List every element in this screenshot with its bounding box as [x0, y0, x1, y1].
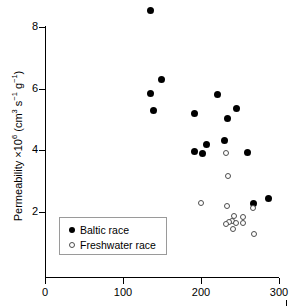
y-tick-label-4: 4 [8, 143, 38, 155]
y-tick-2 [39, 212, 45, 213]
data-point-baltic-13 [265, 195, 272, 202]
data-point-baltic-7 [224, 115, 231, 122]
y-axis-label-paren-close: ) [12, 71, 24, 75]
data-point-freshwater-4 [250, 205, 256, 211]
y-tick-6 [39, 89, 45, 90]
data-point-baltic-11 [244, 149, 251, 156]
data-point-baltic-8 [221, 137, 228, 144]
data-point-freshwater-3 [224, 203, 230, 209]
x-tick-100 [123, 278, 124, 284]
x-tick-200 [201, 278, 202, 284]
y-tick-label-2: 2 [8, 205, 38, 217]
data-point-freshwater-2 [198, 200, 204, 206]
data-point-baltic-1 [158, 76, 165, 83]
y-axis-label-unit-cm: (cm [12, 113, 24, 134]
scatter-plot-figure: Permeability ×106 (cm3 s−1 g−1) 2468 010… [0, 0, 290, 306]
legend-item-freshwater-race: Freshwater race [67, 238, 156, 252]
data-point-baltic-2 [147, 90, 154, 97]
data-point-baltic-5 [233, 105, 240, 112]
data-point-freshwater-10 [240, 220, 246, 226]
x-tick-label-100: 100 [103, 286, 143, 298]
y-axis-line [45, 26, 46, 278]
y-tick-label-6: 6 [8, 82, 38, 94]
y-tick-8 [39, 27, 45, 28]
data-point-baltic-6 [191, 110, 198, 117]
data-point-baltic-9 [203, 141, 210, 148]
x-tick-label-300: 300 [259, 286, 290, 298]
x-tick-label-0: 0 [25, 286, 65, 298]
x-tick-300 [279, 278, 280, 284]
data-point-baltic-3 [150, 107, 157, 114]
data-point-freshwater-1 [225, 173, 231, 179]
y-axis-label-unit-s: s [12, 101, 24, 110]
data-point-freshwater-0 [223, 150, 229, 156]
data-point-freshwater-11 [223, 221, 229, 227]
open-circle-icon [67, 242, 77, 248]
y-tick-label-8: 8 [8, 20, 38, 32]
data-point-baltic-10 [191, 148, 198, 155]
y-axis-label-exp-10: 6 [10, 135, 19, 139]
filled-circle-icon [67, 227, 77, 233]
x-axis-end-tick [286, 300, 287, 306]
data-point-baltic-12 [199, 150, 206, 157]
data-point-baltic-4 [214, 91, 221, 98]
legend-label-freshwater-race: Freshwater race [80, 239, 156, 251]
legend-label-baltic-race: Baltic race [80, 224, 129, 236]
x-tick-0 [45, 278, 46, 284]
data-point-freshwater-12 [230, 226, 236, 232]
data-point-freshwater-13 [251, 231, 257, 237]
legend-item-baltic-race: Baltic race [67, 223, 129, 237]
x-axis-line [45, 277, 279, 278]
data-point-baltic-0 [147, 7, 154, 14]
data-point-freshwater-9 [233, 220, 239, 226]
legend-box: Baltic race Freshwater race [59, 217, 167, 255]
x-tick-label-200: 200 [181, 286, 221, 298]
y-tick-4 [39, 150, 45, 151]
y-axis-label-exp-cm: 3 [10, 109, 19, 113]
